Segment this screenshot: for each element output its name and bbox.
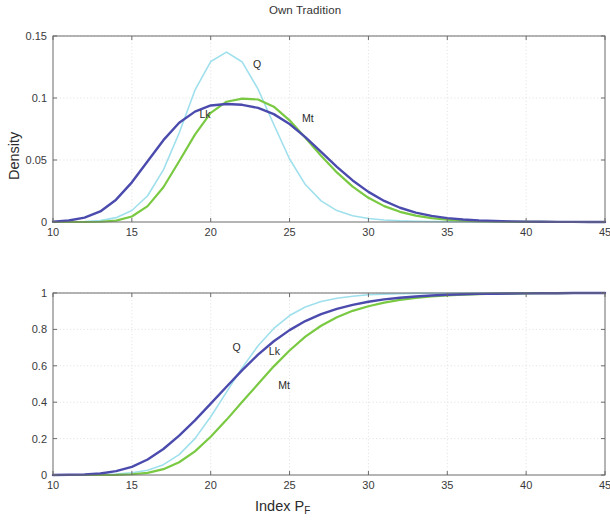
probability-x-axis-label: Index PF (255, 498, 310, 514)
y-tick-label: 0.4 (0, 396, 47, 408)
x-tick-label: 40 (520, 226, 532, 238)
x-tick-label: 20 (205, 226, 217, 238)
series-line-q (53, 52, 605, 222)
probability-subplot: Probability 101520253035404500.20.40.60.… (0, 250, 610, 523)
y-tick-label: 1 (0, 287, 47, 299)
y-tick-label: 0.1 (0, 92, 47, 104)
x-tick-label: 30 (362, 226, 374, 238)
x-tick-label: 35 (441, 479, 453, 491)
series-line-mt (53, 293, 605, 475)
density-curve-label-q: Q (253, 58, 261, 70)
y-tick-label: 0.2 (0, 433, 47, 445)
probability-curve-label-q: Q (233, 341, 241, 353)
y-tick-label: 0 (0, 216, 47, 228)
density-subplot: Own Tradition Density Q Lk Mt 1015202530… (0, 0, 610, 250)
probability-plot-svg (0, 250, 610, 523)
x-tick-label: 10 (47, 226, 59, 238)
axis-frame (53, 36, 605, 222)
y-tick-label: 0.6 (0, 360, 47, 372)
x-tick-label: 35 (441, 226, 453, 238)
x-axis-label-subscript: F (304, 505, 310, 516)
x-tick-label: 10 (47, 479, 59, 491)
x-tick-label: 15 (126, 479, 138, 491)
y-tick-label: 0.15 (0, 30, 47, 42)
y-tick-label: 0.05 (0, 154, 47, 166)
density-curve-label-lk: Lk (199, 108, 210, 120)
y-tick-label: 0 (0, 469, 47, 481)
x-tick-label: 45 (599, 479, 610, 491)
x-axis-label-main: Index P (255, 498, 304, 514)
probability-curve-label-mt: Mt (278, 379, 290, 391)
y-tick-label: 0.8 (0, 323, 47, 335)
x-tick-label: 25 (283, 479, 295, 491)
x-tick-label: 20 (205, 479, 217, 491)
probability-curve-label-lk: Lk (269, 345, 280, 357)
x-tick-label: 25 (283, 226, 295, 238)
chart-title: Own Tradition (0, 4, 610, 16)
figure-canvas: Own Tradition Density Q Lk Mt 1015202530… (0, 0, 610, 523)
x-tick-label: 15 (126, 226, 138, 238)
density-plot-svg (0, 0, 610, 250)
x-tick-label: 45 (599, 226, 610, 238)
x-tick-label: 30 (362, 479, 374, 491)
density-curve-label-mt: Mt (302, 112, 314, 124)
x-tick-label: 40 (520, 479, 532, 491)
